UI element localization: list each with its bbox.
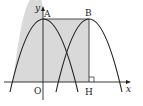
label-b: B bbox=[85, 8, 92, 18]
label-y: y bbox=[34, 3, 41, 13]
label-o: O bbox=[34, 86, 41, 96]
parabola-diagram: y A B O H x bbox=[0, 0, 143, 106]
label-a: A bbox=[43, 9, 51, 19]
right-angle-mark bbox=[89, 77, 94, 82]
label-x: x bbox=[126, 84, 131, 94]
label-h: H bbox=[85, 87, 93, 97]
